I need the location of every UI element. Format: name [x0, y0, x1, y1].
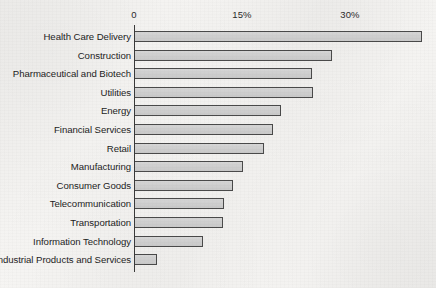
bar-category-label: Utilities	[0, 87, 131, 99]
bar	[135, 236, 203, 247]
bar	[135, 161, 243, 172]
bar-category-label: Transportation	[0, 217, 131, 229]
bar	[135, 217, 223, 228]
bar-category-label: Retail	[0, 143, 131, 155]
bar-category-label: Consumer Goods	[0, 180, 131, 192]
bar-category-label: Health Care Delivery	[0, 31, 131, 43]
bar-category-label: Industrial Products and Services	[0, 254, 131, 266]
bar	[135, 31, 422, 42]
bar-category-label: Manufacturing	[0, 161, 131, 173]
bar-category-label: Information Technology	[0, 236, 131, 248]
bar	[135, 124, 273, 135]
bar-row: Telecommunication	[0, 196, 436, 214]
bar-row: Industrial Products and Services	[0, 252, 436, 270]
axis-tick-30: 30%	[340, 9, 359, 20]
bar	[135, 68, 312, 79]
bar-row: Retail	[0, 141, 436, 159]
bar-row: Financial Services	[0, 122, 436, 140]
bar-row: Consumer Goods	[0, 178, 436, 196]
bar-row: Transportation	[0, 215, 436, 233]
bar	[135, 105, 281, 116]
bar-row: Information Technology	[0, 234, 436, 252]
bar	[135, 254, 157, 265]
bar	[135, 87, 313, 98]
bar-chart: 0 15% 30% Health Care DeliveryConstructi…	[0, 0, 436, 288]
bar-row: Health Care Delivery	[0, 29, 436, 47]
bar-category-label: Construction	[0, 50, 131, 62]
bar	[135, 180, 233, 191]
bar-row: Utilities	[0, 85, 436, 103]
bar	[135, 143, 264, 154]
bar-category-label: Pharmaceutical and Biotech	[0, 68, 131, 80]
bar-category-label: Energy	[0, 105, 131, 117]
bar-row: Manufacturing	[0, 159, 436, 177]
bar-category-label: Telecommunication	[0, 198, 131, 210]
bar	[135, 50, 332, 61]
axis-tick-15: 15%	[232, 9, 251, 20]
bar-row: Pharmaceutical and Biotech	[0, 66, 436, 84]
bar	[135, 198, 224, 209]
bar-row: Construction	[0, 48, 436, 66]
bar-category-label: Financial Services	[0, 124, 131, 136]
bar-row: Energy	[0, 103, 436, 121]
axis-tick-0: 0	[131, 9, 136, 20]
